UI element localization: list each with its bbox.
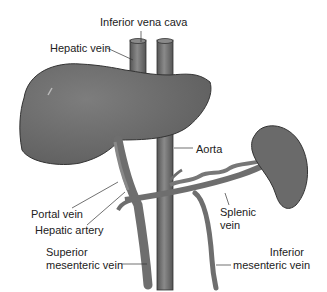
label-splenic-vein-1: Splenic	[220, 206, 256, 218]
inferior-vena-cava	[130, 39, 146, 76]
inferior-mesenteric-vein	[195, 193, 216, 288]
label-superior-mesenteric-1: Superior	[46, 246, 88, 258]
splenic-vein	[125, 160, 275, 200]
label-inferior-vena-cava: Inferior vena cava	[100, 16, 187, 28]
label-inferior-mesenteric-2: mesenteric vein	[233, 259, 310, 271]
label-splenic-vein-2: vein	[220, 219, 240, 231]
label-hepatic-artery: Hepatic artery	[35, 224, 103, 236]
label-hepatic-vein: Hepatic vein	[50, 42, 111, 54]
label-portal-vein: Portal vein	[31, 208, 83, 220]
label-superior-mesenteric-2: mesenteric vein	[46, 259, 123, 271]
label-inferior-mesenteric-1: Inferior	[240, 246, 304, 258]
label-aorta: Aorta	[196, 143, 222, 155]
spleen	[252, 126, 308, 209]
